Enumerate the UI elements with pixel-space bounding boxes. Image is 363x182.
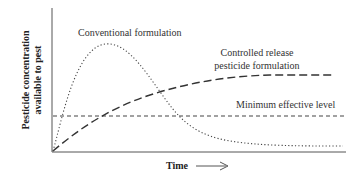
pesticide-release-chart: Pesticide concentration available to pes… xyxy=(0,0,363,182)
conventional-label: Conventional formulation xyxy=(78,27,182,38)
y-axis-label-line1: Pesticide concentration xyxy=(20,30,31,130)
controlled-label-line1: Controlled release xyxy=(220,47,294,58)
time-arrow-icon xyxy=(196,162,228,170)
controlled-label-line2: pesticide formulation xyxy=(214,60,299,71)
minimum-level-label: Minimum effective level xyxy=(236,99,335,110)
y-axis-label-line2: available to pest xyxy=(32,45,43,115)
controlled-release-curve xyxy=(53,75,335,151)
x-axis-label: Time xyxy=(166,160,189,171)
